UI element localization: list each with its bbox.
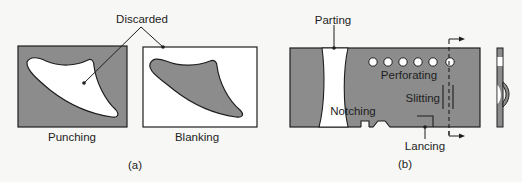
side-view-lanced-bulge (503, 82, 509, 107)
discarded-dot-punching (82, 81, 86, 85)
parting-label: Parting (315, 14, 351, 26)
parting-dot (332, 46, 336, 50)
perforation-hole (414, 58, 422, 66)
section-arrowhead-top (459, 37, 465, 42)
discarded-dot-blanking (161, 45, 165, 49)
side-view-hole (498, 57, 503, 66)
perforating-label: Perforating (381, 69, 437, 81)
lancing-dot (423, 125, 427, 129)
panel-a: Discarded Punching Blanking (a) (18, 13, 257, 171)
slitting-label: Slitting (405, 92, 440, 104)
panel-a-caption: (a) (128, 159, 142, 171)
perforation-hole (384, 58, 392, 66)
lancing-label: Lancing (405, 140, 445, 152)
notching-label: Notching (330, 105, 375, 117)
blanking-label: Blanking (175, 131, 219, 143)
perforation-hole (446, 58, 454, 66)
section-arrowhead-bottom (459, 134, 465, 139)
notch-rectangular (361, 121, 369, 128)
discarded-callout-label: Discarded (116, 13, 168, 25)
punching-label: Punching (48, 131, 96, 143)
shearing-operations-diagram: Discarded Punching Blanking (a) Parting (0, 0, 522, 182)
perforation-hole (369, 58, 377, 66)
panel-b-caption: (b) (398, 158, 412, 170)
panel-b: Parting Perforating Slitting Notching La… (290, 14, 509, 170)
perforation-hole (429, 58, 437, 66)
perforation-hole (399, 58, 407, 66)
side-section-view (497, 48, 509, 127)
